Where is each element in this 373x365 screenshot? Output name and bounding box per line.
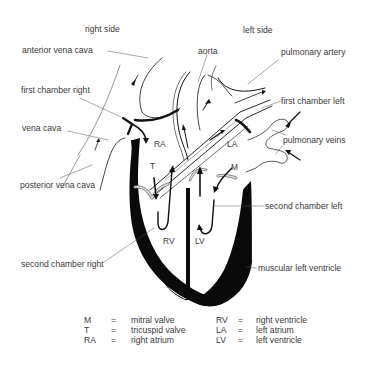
left-side-label: left side: [243, 26, 273, 35]
legend-abbr: M: [84, 315, 111, 325]
leader-anterior-vena-cava: [108, 51, 148, 58]
m-label: M: [231, 163, 238, 171]
pulmonary-veins-label: pulmonary veins: [283, 136, 346, 145]
abbreviation-legend: M = mitral valve RV = right ventricle T …: [84, 315, 307, 345]
la-label: LA: [227, 140, 237, 148]
legend-equals: =: [238, 335, 256, 345]
lv-label: LV: [195, 237, 205, 245]
vena-cava-label: vena cava: [22, 124, 61, 133]
aorta-label: aorta: [198, 47, 218, 56]
anterior-vena-cava-label: anterior vena cava: [22, 46, 93, 55]
legend-abbr: LV: [216, 335, 238, 345]
t-label: T: [150, 162, 155, 170]
posterior-vena-cava-label: posterior vena cava: [20, 181, 95, 190]
leader-pulmonary-artery: [248, 60, 278, 84]
legend-text: left ventricle: [256, 335, 302, 345]
right-side-label: right side: [85, 25, 120, 34]
legend-text: right atrium: [131, 335, 216, 345]
first-chamber-right-label: first chamber right: [21, 86, 90, 95]
legend-equals: =: [111, 325, 131, 335]
legend-text: left atrium: [256, 325, 294, 335]
second-chamber-right-label: second chamber right: [21, 260, 104, 269]
ra-label: RA: [154, 140, 166, 148]
legend-row: M = mitral valve RV = right ventricle: [84, 315, 307, 325]
legend-row: RA = right atrium LV = left ventricle: [84, 335, 307, 345]
legend-text: mitral valve: [131, 315, 216, 325]
legend-abbr: T: [84, 325, 111, 335]
legend-abbr: LA: [216, 325, 238, 335]
legend-text: tricuspid valve: [131, 325, 216, 335]
legend-equals: =: [238, 325, 256, 335]
legend-abbr: RV: [216, 315, 238, 325]
pulmonary-artery-label: pulmonary artery: [281, 48, 345, 57]
legend-text: right ventricle: [256, 315, 307, 325]
muscular-left-ventricle-label: muscular left ventricle: [258, 264, 341, 273]
first-chamber-left-label: first chamber left: [281, 97, 345, 106]
legend-abbr: RA: [84, 335, 111, 345]
legend-equals: =: [111, 335, 131, 345]
legend-equals: =: [238, 315, 256, 325]
legend-equals: =: [111, 315, 131, 325]
rv-label: RV: [163, 237, 174, 245]
second-chamber-left-label: second chamber left: [265, 202, 342, 211]
leader-posterior-vena-cava: [60, 165, 92, 178]
legend-row: T = tricuspid valve LA = left atrium: [84, 325, 307, 335]
